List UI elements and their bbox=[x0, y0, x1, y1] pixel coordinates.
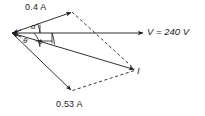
construction-line-parallelogram-lower bbox=[73, 71, 135, 91]
diagram-vector-graphics bbox=[0, 0, 205, 116]
label-angle-theta: θ bbox=[23, 37, 27, 45]
phasor-diagram-canvas: 0.4 A 0.53 A V = 240 V I α θ ϕ bbox=[0, 0, 205, 116]
label-voltage: V = 240 V bbox=[147, 27, 189, 37]
label-current-branch-1: 0.4 A bbox=[25, 3, 47, 12]
label-current-total: I bbox=[137, 66, 140, 76]
label-current-branch-2: 0.53 A bbox=[56, 100, 83, 109]
label-angle-phi: ϕ bbox=[38, 38, 42, 46]
label-angle-alpha: α bbox=[31, 23, 36, 31]
